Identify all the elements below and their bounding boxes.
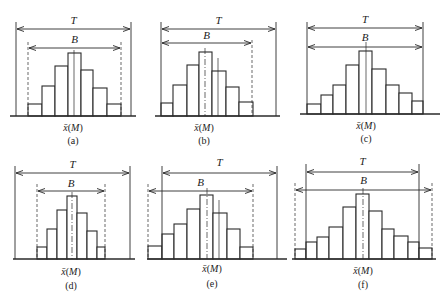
tolerance-label-T: T xyxy=(70,14,77,26)
panel-b: TBx̄(M)(b) xyxy=(155,14,280,147)
tolerance-label-T: T xyxy=(362,13,369,25)
histogram-bar xyxy=(37,247,47,259)
histogram-bar xyxy=(87,231,97,259)
histogram-bar xyxy=(343,207,356,259)
histogram-bar xyxy=(333,85,346,114)
histogram-bar xyxy=(148,246,162,259)
histogram-bar xyxy=(93,88,107,116)
histogram-bars xyxy=(28,53,121,116)
panel-a: TBx̄(M)(a) xyxy=(10,14,136,147)
histogram-bar xyxy=(372,69,386,114)
tolerance-label-T: T xyxy=(216,156,223,168)
spread-label-B: B xyxy=(68,177,75,189)
histogram-bar xyxy=(412,101,423,114)
panel-label: (a) xyxy=(67,135,78,147)
panel-d: TBx̄(M)(d) xyxy=(13,158,135,292)
panel-label: (e) xyxy=(206,278,217,290)
histogram-bar xyxy=(239,102,253,116)
panel-f: TBx̄(M)(f) xyxy=(292,155,436,291)
histogram-bar xyxy=(187,209,200,259)
x-axis-label: x̄(M) xyxy=(201,263,221,275)
histogram-bar xyxy=(174,224,187,259)
histogram-bar xyxy=(321,95,333,114)
histogram-bars xyxy=(295,194,432,259)
histogram-bar xyxy=(42,86,55,116)
histogram-bar xyxy=(329,227,343,259)
histogram-bar xyxy=(55,66,68,116)
tolerance-label-T: T xyxy=(359,155,366,167)
histogram-bar xyxy=(173,85,187,116)
histogram-bar xyxy=(107,104,121,116)
histogram-bar xyxy=(97,247,105,259)
x-axis-label: x̄(M) xyxy=(60,266,80,278)
x-axis-label: x̄(M) xyxy=(355,120,375,132)
histogram-bar xyxy=(295,249,306,259)
histogram-bar xyxy=(47,229,57,259)
histogram-bar xyxy=(213,213,227,259)
x-axis-label: x̄(M) xyxy=(62,122,82,134)
histogram-bar xyxy=(57,210,67,259)
spread-label-B: B xyxy=(203,29,210,41)
histogram-bar xyxy=(187,65,199,116)
panel-e: TBx̄(M)(e) xyxy=(147,156,287,290)
histogram-bar xyxy=(419,248,432,259)
x-axis-label: x̄(M) xyxy=(193,122,213,134)
histogram-bar xyxy=(346,65,359,114)
histogram-bar xyxy=(68,53,81,116)
histogram-bar xyxy=(28,104,42,116)
histogram-bars xyxy=(37,196,105,259)
panel-label: (d) xyxy=(65,280,77,292)
panel-label: (c) xyxy=(360,133,371,145)
histogram-bar xyxy=(227,229,240,259)
histogram-bar xyxy=(386,85,399,114)
tolerance-label-T: T xyxy=(215,14,222,26)
histogram-bar xyxy=(307,104,321,114)
histogram-bars xyxy=(307,51,423,114)
panel-label: (b) xyxy=(198,135,210,147)
histogram-bar xyxy=(408,242,419,259)
spread-label-B: B xyxy=(71,33,78,45)
histogram-bar xyxy=(359,51,372,114)
histogram-bar xyxy=(77,213,87,259)
histogram-bar xyxy=(306,242,317,259)
histogram-bars xyxy=(148,195,253,259)
histogram-bar xyxy=(212,71,226,116)
histogram-bar xyxy=(382,229,394,259)
histogram-bar xyxy=(317,237,329,259)
spread-label-B: B xyxy=(197,176,204,188)
spread-label-B: B xyxy=(362,31,369,43)
histogram-bar xyxy=(240,247,253,259)
histogram-bar xyxy=(356,194,369,259)
histogram-bars xyxy=(161,52,253,116)
histogram-bar xyxy=(399,93,412,114)
histogram-figure: TBx̄(M)(a)TBx̄(M)(b)TBx̄(M)(c)TBx̄(M)(d)… xyxy=(0,0,446,304)
histogram-bar xyxy=(200,195,213,259)
panel-c: TBx̄(M)(c) xyxy=(300,13,440,145)
histogram-bar xyxy=(81,70,93,116)
histogram-bar xyxy=(199,52,212,116)
histogram-bar xyxy=(369,211,382,259)
spread-label-B: B xyxy=(360,174,367,186)
histogram-bar xyxy=(161,103,173,116)
tolerance-label-T: T xyxy=(69,158,76,170)
histogram-bar xyxy=(394,236,408,259)
histogram-bar xyxy=(162,234,174,259)
panel-label: (f) xyxy=(358,279,368,291)
x-axis-label: x̄(M) xyxy=(352,265,372,277)
histogram-bar xyxy=(226,87,239,116)
